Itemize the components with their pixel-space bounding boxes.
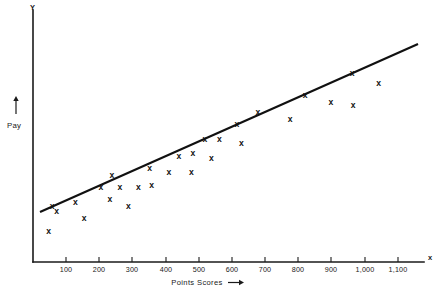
- scatter-point: x: [176, 151, 181, 161]
- x-tick-label: 600: [226, 265, 239, 274]
- plot-canvas: Y x 100 200 300 400 500 600 700 800: [0, 0, 439, 295]
- x-tick-label: 400: [160, 265, 173, 274]
- y-axis-title-arrowhead: [13, 96, 18, 101]
- x-tick-label: 700: [259, 265, 272, 274]
- scatter-point: x: [209, 153, 214, 163]
- scatter-point: x: [46, 226, 51, 236]
- scatter-point: x: [350, 68, 355, 78]
- scatter-point: x: [136, 182, 141, 192]
- x-axis-title-group: Points Scores: [171, 278, 244, 287]
- y-axis-title-group: Pay: [7, 96, 21, 130]
- scatter-point: x: [217, 134, 222, 144]
- y-axis-title: Pay: [7, 121, 21, 130]
- scatter-point: x: [117, 182, 122, 192]
- scatter-point: x: [149, 180, 154, 190]
- x-axis-title: Points Scores: [171, 278, 222, 287]
- scatter-point: x: [167, 167, 172, 177]
- x-tick-label: 100: [60, 265, 73, 274]
- scatter-point: x: [256, 107, 261, 117]
- scatter-point: x: [239, 138, 244, 148]
- scatter-point: x: [189, 167, 194, 177]
- x-axis-tick-labels: 100 200 300 400 500 600 700 800 900 1,00…: [60, 265, 408, 274]
- scatter-point: x: [376, 78, 381, 88]
- scatter-point: x: [288, 114, 293, 124]
- y-axis-symbol-label: Y: [30, 3, 35, 12]
- x-tick-label: 200: [93, 265, 106, 274]
- x-tick-label: 800: [292, 265, 305, 274]
- scatter-point: x: [351, 100, 356, 110]
- x-tick-label: 300: [126, 265, 139, 274]
- scatter-point: x: [109, 170, 114, 180]
- scatter-chart-figure: Y x 100 200 300 400 500 600 700 800: [0, 0, 439, 295]
- scatter-point: x: [107, 194, 112, 204]
- x-tick-label: 500: [193, 265, 206, 274]
- trend-line: [40, 44, 418, 212]
- x-axis-symbol-label: x: [428, 253, 433, 262]
- scatter-point: x: [329, 97, 334, 107]
- scatter-point: x: [54, 206, 59, 216]
- scatter-point: x: [303, 90, 308, 100]
- scatter-point-layer: xxxxxxxxxxxxxxxxxxxxxxxxxxxxx: [46, 68, 381, 235]
- scatter-point: x: [82, 213, 87, 223]
- scatter-point: x: [190, 148, 195, 158]
- x-tick-label: 1,100: [389, 265, 408, 274]
- x-tick-label: 900: [325, 265, 338, 274]
- scatter-point: x: [202, 134, 207, 144]
- x-tick-label: 1,000: [356, 265, 375, 274]
- x-axis-title-arrowhead: [239, 280, 244, 285]
- scatter-point: x: [73, 197, 78, 207]
- scatter-point: x: [147, 163, 152, 173]
- scatter-point: x: [235, 119, 240, 129]
- scatter-point: x: [126, 201, 131, 211]
- scatter-point: x: [98, 182, 103, 192]
